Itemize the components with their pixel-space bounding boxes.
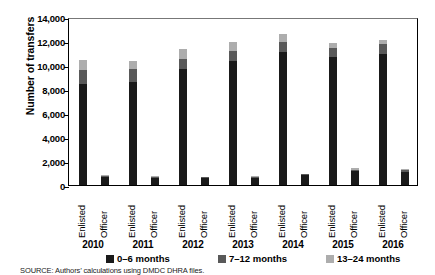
bar-officer-2012[interactable]	[201, 177, 209, 185]
bar-officer-2014[interactable]	[301, 174, 309, 186]
legend-swatch-icon	[326, 255, 334, 263]
stacked-bar	[129, 61, 137, 185]
bar-officer-2010[interactable]	[101, 175, 109, 185]
stacked-bar	[401, 169, 409, 185]
legend-label: 0–6 months	[117, 253, 170, 264]
bar-segment-0-6-months	[279, 52, 287, 185]
x-year-label: 2016	[382, 239, 403, 250]
bar-enlisted-2011[interactable]	[129, 61, 137, 185]
bar-segment-0-6-months	[401, 172, 409, 185]
x-category-label: Enlisted	[376, 188, 387, 238]
x-year-label: 2012	[182, 239, 203, 250]
bar-segment-0-6-months	[129, 82, 137, 185]
bar-segment-0-6-months	[101, 177, 109, 185]
bar-enlisted-2014[interactable]	[279, 34, 287, 185]
x-category-label: Officer	[248, 188, 259, 238]
bar-segment-13-24-months	[79, 60, 87, 70]
stacked-bar	[179, 49, 187, 185]
y-tick-mark	[64, 139, 69, 140]
x-year-label: 2013	[232, 239, 253, 250]
stacked-bar	[151, 176, 159, 185]
y-tick-label: 6,000	[42, 109, 65, 120]
bar-segment-0-6-months	[229, 61, 237, 185]
stacked-bar	[351, 168, 359, 185]
x-category-label: Officer	[198, 188, 209, 238]
y-tick-mark	[64, 43, 69, 44]
stacked-bar	[229, 42, 237, 185]
legend-label: 7–12 months	[229, 253, 287, 264]
x-category-label: Enlisted	[176, 188, 187, 238]
bar-segment-13-24-months	[179, 49, 187, 59]
stacked-bar	[279, 34, 287, 185]
bar-segment-0-6-months	[301, 175, 309, 185]
y-tick-label: 14,000	[37, 13, 65, 24]
y-tick-mark	[64, 163, 69, 164]
y-tick-label: 8,000	[42, 85, 65, 96]
x-category-label: Enlisted	[76, 188, 87, 238]
stacked-bar	[201, 177, 209, 185]
plot-area	[68, 18, 418, 186]
x-year-label: 2011	[133, 239, 154, 250]
bar-segment-7-12-months	[279, 42, 287, 52]
bar-enlisted-2015[interactable]	[329, 43, 337, 185]
x-year-label: 2014	[282, 239, 303, 250]
y-tick-mark	[64, 115, 69, 116]
bar-segment-0-6-months	[179, 69, 187, 185]
y-tick-mark	[64, 19, 69, 20]
bar-segment-0-6-months	[251, 178, 259, 185]
bar-segment-7-12-months	[379, 44, 387, 54]
x-category-label: Enlisted	[326, 188, 337, 238]
legend-item[interactable]: 7–12 months	[218, 253, 287, 264]
x-year-label: 2015	[332, 239, 353, 250]
y-tick-label: 12,000	[37, 37, 65, 48]
y-tick-label: 0	[60, 181, 65, 192]
bar-officer-2013[interactable]	[251, 176, 259, 185]
x-category-label: Officer	[298, 188, 309, 238]
y-axis-tick-labels: 02,0004,0006,0008,00010,00012,00014,000	[10, 14, 65, 192]
source-note: SOURCE: Authors’ calculations using DMDC…	[20, 266, 204, 275]
bar-segment-7-12-months	[79, 70, 87, 84]
x-category-label: Enlisted	[126, 188, 137, 238]
chart-legend: 0–6 months7–12 months13–24 months	[68, 252, 418, 265]
bar-enlisted-2012[interactable]	[179, 49, 187, 185]
stacked-bar	[251, 176, 259, 185]
legend-swatch-icon	[218, 255, 226, 263]
legend-item[interactable]: 0–6 months	[106, 253, 170, 264]
bar-enlisted-2013[interactable]	[229, 42, 237, 185]
stacked-bar	[101, 175, 109, 185]
bar-segment-0-6-months	[351, 171, 359, 185]
x-category-label: Enlisted	[276, 188, 287, 238]
y-tick-mark	[64, 91, 69, 92]
y-tick-label: 4,000	[42, 133, 65, 144]
legend-label: 13–24 months	[337, 253, 400, 264]
bar-enlisted-2010[interactable]	[79, 60, 87, 185]
bar-segment-0-6-months	[201, 178, 209, 185]
bar-segment-7-12-months	[229, 51, 237, 62]
legend-item[interactable]: 13–24 months	[326, 253, 400, 264]
x-category-label: Officer	[398, 188, 409, 238]
bar-segment-0-6-months	[379, 54, 387, 185]
bar-segment-0-6-months	[79, 84, 87, 185]
bar-segment-7-12-months	[129, 69, 137, 82]
y-tick-label: 10,000	[37, 61, 65, 72]
legend-swatch-icon	[106, 255, 114, 263]
bar-segment-0-6-months	[329, 57, 337, 185]
y-tick-mark	[64, 67, 69, 68]
bar-enlisted-2016[interactable]	[379, 40, 387, 185]
bar-segment-13-24-months	[129, 61, 137, 69]
stacked-bar	[329, 43, 337, 185]
x-axis-category-labels: EnlistedOfficerEnlistedOfficerEnlistedOf…	[68, 188, 418, 240]
y-tick-label: 2,000	[42, 157, 65, 168]
bar-segment-13-24-months	[229, 42, 237, 50]
stacked-bar	[79, 60, 87, 185]
bar-segment-13-24-months	[279, 34, 287, 42]
plot-inner	[69, 19, 417, 185]
bar-segment-0-6-months	[151, 178, 159, 185]
bar-officer-2011[interactable]	[151, 176, 159, 185]
stacked-bar	[301, 174, 309, 186]
x-category-label: Enlisted	[226, 188, 237, 238]
bar-officer-2015[interactable]	[351, 168, 359, 185]
x-category-label: Officer	[148, 188, 159, 238]
bar-officer-2016[interactable]	[401, 169, 409, 185]
